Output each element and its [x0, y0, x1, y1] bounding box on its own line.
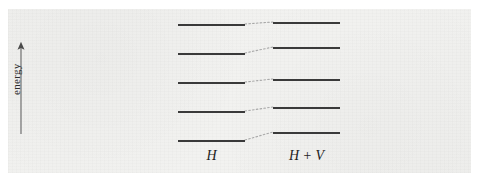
energy-level-diagram-panel: energy H H + V	[8, 9, 471, 173]
energy-level-h-4	[178, 53, 245, 55]
energy-level-hv-4	[273, 47, 340, 49]
energy-axis-label: energy	[10, 63, 22, 95]
level-connector-5	[245, 22, 273, 24]
energy-level-h-2	[178, 111, 245, 113]
energy-level-h-5	[178, 24, 245, 26]
level-connector-4	[245, 47, 273, 53]
energy-level-hv-2	[273, 107, 340, 109]
energy-level-hv-1	[273, 132, 340, 134]
energy-level-hv-3	[273, 79, 340, 81]
column-label-h: H	[178, 148, 245, 164]
energy-level-h-1	[178, 140, 245, 142]
column-label-h-plus-v: H + V	[273, 148, 340, 164]
level-connector-2	[245, 107, 273, 111]
level-connector-1	[245, 132, 273, 140]
energy-level-h-3	[178, 82, 245, 84]
level-connector-3	[245, 79, 273, 82]
energy-level-hv-5	[273, 22, 340, 24]
